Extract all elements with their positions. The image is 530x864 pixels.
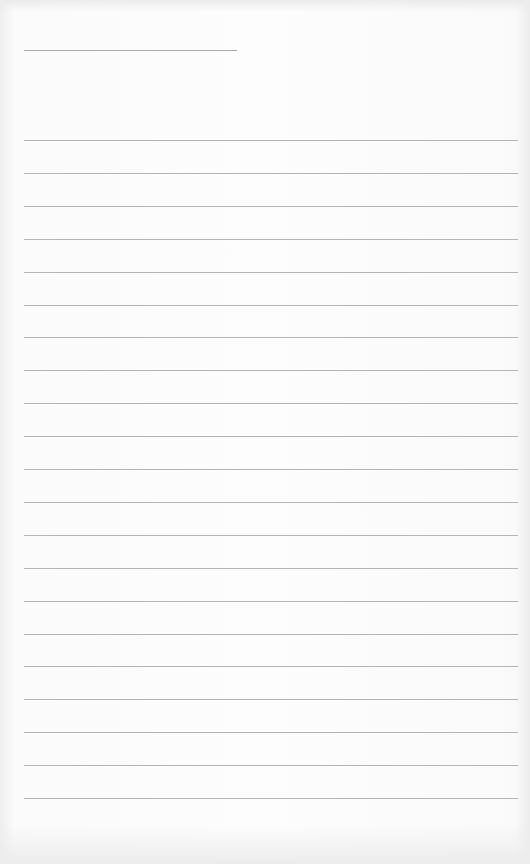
ruled-line	[24, 634, 518, 635]
ruled-line	[24, 535, 518, 536]
ruled-line	[24, 436, 518, 437]
ruled-line	[24, 239, 518, 240]
ruled-line	[24, 798, 518, 799]
ruled-line	[24, 403, 518, 404]
ruled-line	[24, 568, 518, 569]
ruled-line	[24, 305, 518, 306]
ruled-line	[24, 370, 518, 371]
ruled-line	[24, 206, 518, 207]
lined-paper-sheet	[0, 0, 530, 864]
ruled-line	[24, 173, 518, 174]
ruled-line	[24, 699, 518, 700]
ruled-line	[24, 666, 518, 667]
ruled-line	[24, 765, 518, 766]
ruled-line	[24, 502, 518, 503]
ruled-line	[24, 601, 518, 602]
ruled-line	[24, 272, 518, 273]
ruled-line	[24, 469, 518, 470]
title-rule	[24, 50, 237, 51]
ruled-line	[24, 732, 518, 733]
ruled-line	[24, 140, 518, 141]
ruled-line	[24, 337, 518, 338]
